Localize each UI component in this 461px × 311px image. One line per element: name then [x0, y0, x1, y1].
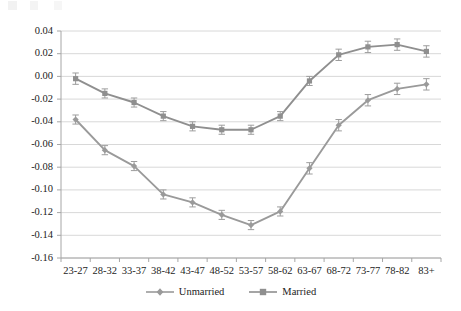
data-point — [307, 78, 312, 83]
data-point — [102, 91, 107, 96]
x-tick-label: 83+ — [409, 266, 443, 277]
y-tick-label: -0.06 — [8, 139, 53, 150]
series-unmarried — [72, 79, 429, 230]
data-point — [278, 114, 283, 119]
series-line — [76, 84, 427, 225]
data-point — [365, 44, 370, 49]
legend-label-married: Married — [282, 287, 316, 298]
y-tick-label: -0.02 — [8, 94, 53, 105]
data-point — [423, 81, 429, 87]
y-tick-label: -0.12 — [8, 207, 53, 218]
y-tick-label: -0.16 — [8, 253, 53, 264]
y-tick-label: 0.00 — [8, 71, 53, 82]
data-point — [336, 52, 341, 57]
legend-key-unmarried-icon — [145, 286, 175, 298]
data-point — [394, 86, 400, 92]
data-point — [161, 114, 166, 119]
legend-label-unmarried: Unmarried — [179, 287, 224, 298]
data-point — [131, 100, 136, 105]
scan-artifact — [8, 1, 78, 10]
legend-item-unmarried[interactable]: Unmarried — [145, 286, 224, 298]
data-point — [248, 127, 253, 132]
data-point — [248, 222, 254, 228]
series-married — [72, 39, 429, 134]
chart-legend: Unmarried Married — [0, 286, 461, 298]
line-chart: 0.040.020.00-0.02-0.04-0.06-0.08-0.10-0.… — [0, 0, 461, 311]
y-tick-label: 0.04 — [8, 26, 53, 37]
y-tick-label: -0.04 — [8, 116, 53, 127]
data-point — [219, 127, 224, 132]
data-point — [395, 42, 400, 47]
legend-item-married[interactable]: Married — [248, 286, 316, 298]
y-tick-label: -0.10 — [8, 184, 53, 195]
y-tick-label: -0.08 — [8, 162, 53, 173]
legend-key-married-icon — [248, 286, 278, 298]
data-point — [190, 124, 195, 129]
y-tick-label: -0.14 — [8, 230, 53, 241]
y-tick-label: 0.02 — [8, 48, 53, 59]
data-point — [189, 199, 195, 205]
series-line — [76, 45, 427, 130]
data-point — [424, 49, 429, 54]
data-point — [73, 76, 78, 81]
